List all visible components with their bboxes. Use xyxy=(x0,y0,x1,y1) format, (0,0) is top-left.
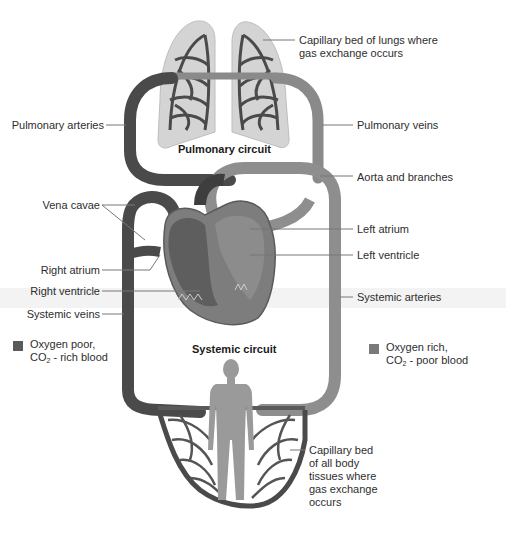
legend-line1: Oxygen poor, xyxy=(30,338,108,351)
legend-text: Oxygen rich, CO2 - poor blood xyxy=(386,341,468,370)
pulmonary-circuit-title: Pulmonary circuit xyxy=(178,143,271,155)
legend-line1: Oxygen rich, xyxy=(386,341,468,354)
label-capillary-bed-lungs: Capillary bed of lungs where gas exchang… xyxy=(299,34,438,60)
co2-text: CO xyxy=(30,351,47,363)
label-line: tissues where xyxy=(309,470,378,483)
label-systemic-arteries: Systemic arteries xyxy=(357,291,441,304)
label-systemic-veins: Systemic veins xyxy=(27,308,100,321)
label-line: occurs xyxy=(309,496,378,509)
label-line: gas exchange xyxy=(309,483,378,496)
label-right-atrium: Right atrium xyxy=(41,264,100,277)
label-right-ventricle: Right ventricle xyxy=(30,285,100,298)
legend-swatch-dark xyxy=(13,341,23,351)
legend-suffix: - poor blood xyxy=(406,354,468,366)
legend-suffix: - rich blood xyxy=(50,351,107,363)
label-pulmonary-arteries: Pulmonary arteries xyxy=(12,119,104,132)
label-line: gas exchange occurs xyxy=(299,47,438,60)
label-capillary-bed-body: Capillary bed of all body tissues where … xyxy=(309,444,378,509)
label-left-ventricle: Left ventricle xyxy=(357,249,419,262)
systemic-circuit-title: Systemic circuit xyxy=(192,343,276,355)
legend-oxygen-rich: Oxygen rich, CO2 - poor blood xyxy=(369,341,468,370)
co2-text: CO xyxy=(386,354,403,366)
label-pulmonary-veins: Pulmonary veins xyxy=(357,119,438,132)
label-line: of all body xyxy=(309,457,378,470)
label-left-atrium: Left atrium xyxy=(357,223,409,236)
label-aorta-and-branches: Aorta and branches xyxy=(357,171,453,184)
legend-oxygen-poor: Oxygen poor, CO2 - rich blood xyxy=(13,338,108,367)
legend-swatch-light xyxy=(369,344,379,354)
legend-line2: CO2 - poor blood xyxy=(386,354,468,370)
label-line: Capillary bed of lungs where xyxy=(299,34,438,47)
human-silhouette xyxy=(208,359,254,500)
label-line: Capillary bed xyxy=(309,444,378,457)
heart xyxy=(164,201,275,325)
legend-text: Oxygen poor, CO2 - rich blood xyxy=(30,338,108,367)
label-vena-cavae: Vena cavae xyxy=(43,199,101,212)
legend-line2: CO2 - rich blood xyxy=(30,351,108,367)
